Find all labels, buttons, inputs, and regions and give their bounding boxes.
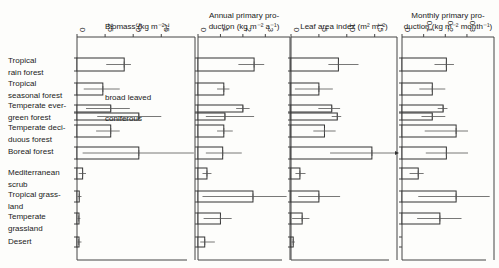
row-label: duous forest — [8, 135, 53, 144]
tick-label: 75 — [162, 23, 171, 32]
tick-label: 0 — [199, 28, 208, 33]
annotations: broad leavedconiferous — [105, 93, 151, 123]
tick-label: 25 — [106, 23, 115, 32]
row-label: Temperate ever- — [8, 101, 67, 110]
tick-label: 0 — [78, 28, 87, 33]
row-label: scrub — [8, 180, 28, 189]
tick-label: 0 — [292, 28, 301, 33]
row-label: Tropical — [8, 79, 36, 88]
tick-label: 2 — [244, 28, 253, 33]
row-label: Temperate — [8, 212, 46, 221]
panel-1: Annual primary pro-duction (kg m⁻² a⁻¹)0… — [195, 11, 290, 260]
biome-comparison-chart: Tropicalrain forestTropicalseasonal fore… — [0, 0, 499, 268]
row-label: Tropical grass- — [8, 190, 61, 199]
tick-label: 15 — [376, 23, 385, 32]
row-label: green forest — [8, 113, 51, 122]
tick-label: 0.3 — [468, 21, 477, 33]
row-label: seasonal forest — [8, 91, 63, 100]
row-label: Desert — [8, 237, 32, 246]
tick-label: 5 — [320, 28, 329, 33]
tick-label: 50 — [134, 23, 143, 32]
tick-label: 0.2 — [446, 21, 455, 33]
bar — [291, 113, 337, 120]
tick-label: 1 — [221, 28, 230, 33]
chart-panels: Biomass (kg m⁻²)0255075Annual primary pr… — [74, 11, 494, 260]
row-label: Boreal forest — [8, 147, 54, 156]
row-label: grassland — [8, 224, 43, 233]
tick-label: 0.1 — [425, 21, 434, 33]
row-labels: Tropicalrain forestTropicalseasonal fore… — [8, 56, 67, 246]
annotation-broad-leaved: broad leaved — [105, 93, 151, 102]
row-label: land — [8, 202, 23, 211]
row-label: Mediterranean — [8, 168, 60, 177]
tick-label: 3 — [266, 28, 275, 33]
tick-label: 0 — [403, 28, 412, 33]
panel-title: Leaf area index (m² m⁻²) — [300, 22, 388, 31]
panel-title: Monthly primary pro- — [411, 11, 485, 20]
row-label: rain forest — [8, 68, 44, 77]
annotation-coniferous: coniferous — [105, 114, 142, 123]
panel-3: Monthly primary pro-duction (kg m⁻² mont… — [399, 11, 494, 260]
panel-0: Biomass (kg m⁻²)0255075 — [74, 22, 195, 260]
panel-2: Leaf area index (m² m⁻²)051015 — [288, 22, 399, 260]
row-label: Tropical — [8, 56, 36, 65]
row-label: Temperate deci- — [8, 123, 66, 132]
bar — [402, 105, 443, 112]
panel-title: Annual primary pro- — [209, 11, 280, 20]
tick-label: 10 — [348, 23, 357, 32]
